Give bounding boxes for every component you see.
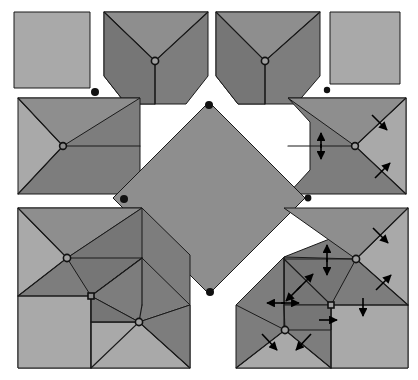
panel-mid-left — [18, 98, 140, 194]
folding-diagram-figure — [0, 0, 418, 380]
square-vertex-bottom-left — [88, 293, 94, 299]
panel-br-lower-right-square — [331, 305, 408, 368]
vertex-mid-left — [60, 143, 67, 150]
vertex-bottom-left-lower — [135, 318, 142, 325]
vertex-mid-right — [352, 143, 359, 150]
panel-top-right-face — [330, 12, 400, 84]
panel-bottom-left — [18, 208, 190, 368]
panel-top-left-face — [14, 12, 90, 88]
dot-upper-left-gap — [91, 88, 99, 96]
dot-diamond-bottom — [206, 288, 214, 296]
vertex-bottom-left-upper — [63, 254, 70, 261]
vertex-top-center-right — [261, 57, 268, 64]
panel-bl-lower-left-square — [18, 296, 91, 368]
vertex-top-center-left — [151, 57, 158, 64]
panel-top-left — [14, 12, 90, 88]
dot-upper-right-gap — [324, 87, 330, 93]
diagram-canvas — [0, 0, 418, 380]
panel-top-right — [330, 12, 400, 84]
dot-diamond-right — [305, 195, 312, 202]
dot-diamond-top — [205, 101, 213, 109]
panel-br-small-quad — [284, 305, 331, 330]
dot-diamond-left — [120, 195, 128, 203]
vertex-bottom-right-lower — [281, 326, 288, 333]
vertex-bottom-right-upper — [352, 255, 359, 262]
panel-mid-right — [288, 98, 406, 194]
square-vertex-bottom-right — [328, 302, 334, 308]
